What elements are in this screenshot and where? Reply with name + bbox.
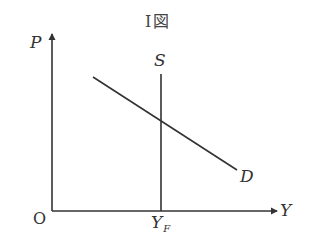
figure-title: I図 [145,14,171,30]
y-axis-label: P [30,34,41,51]
demand-label: D [240,168,254,185]
yf-subscript: F [163,223,170,234]
full-employment-output-label: YF [151,214,170,231]
demand-curve [93,77,237,170]
x-axis-label: Y [280,202,291,219]
origin-label: O [33,211,46,227]
yf-main: Y [151,212,162,232]
supply-label: S [154,52,166,69]
